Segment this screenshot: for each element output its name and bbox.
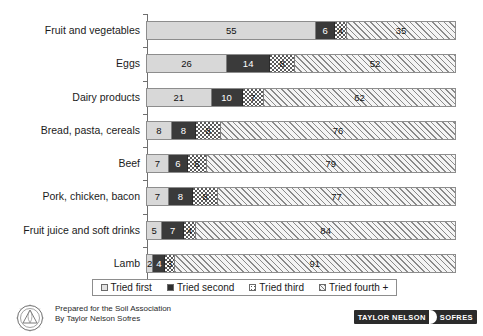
bar-segment-2: 6	[316, 22, 334, 39]
category-label: Fruit juice and soft drinks	[0, 225, 146, 236]
stacked-bar: 2110762	[146, 88, 456, 107]
bar-segment-3: 6	[188, 155, 207, 172]
bar-segment-4: 91	[175, 255, 455, 272]
bar-segment-1: 8	[147, 122, 172, 139]
bar-segment-4: 35	[347, 22, 455, 39]
bar-segment-1: 55	[147, 22, 316, 39]
bar-row: Dairy products2110762	[0, 81, 483, 114]
segment-value: 5	[152, 225, 157, 236]
category-label: Dairy products	[0, 92, 146, 103]
taylor-nelson-sofres-logo: TAYLOR NELSON SOFRES	[354, 310, 477, 324]
chart-legend: Tried firstTried secondTried thirdTried …	[92, 279, 397, 296]
bar-row: Pork, chicken, bacon78877	[0, 180, 483, 213]
bar-row: Fruit and vegetables556435	[0, 14, 483, 47]
logo-right-text: SOFRES	[440, 313, 473, 322]
segment-value: 6	[323, 25, 328, 36]
credit-line-1: Prepared for the Soil Association	[55, 304, 171, 314]
segment-value: 10	[221, 92, 232, 103]
segment-value: 6	[194, 158, 199, 169]
segment-value: 84	[320, 225, 331, 236]
stacked-bar: 2614852	[146, 54, 456, 73]
stacked-bar: 78877	[146, 187, 456, 206]
segment-value: 8	[279, 58, 284, 69]
bar-segment-4: 79	[207, 155, 455, 172]
logo-left-text: TAYLOR NELSON	[358, 313, 426, 322]
bar-segment-4: 52	[295, 55, 455, 72]
segment-value: 3	[167, 258, 172, 269]
bar-segment-2: 7	[162, 222, 184, 239]
segment-value: 14	[243, 58, 254, 69]
category-label: Fruit and vegetables	[0, 25, 146, 36]
segment-value: 21	[174, 92, 185, 103]
bar-segment-1: 21	[147, 89, 212, 106]
bar-segment-4: 62	[264, 89, 455, 106]
legend-item: Tried second	[167, 282, 234, 293]
bar-row: Fruit juice and soft drinks57484	[0, 214, 483, 247]
segment-value: 8	[156, 125, 161, 136]
legend-label: Tried first	[111, 282, 152, 293]
segment-value: 26	[181, 58, 192, 69]
credit-line-2: By Taylor Nelson Sofres	[55, 314, 171, 324]
bar-row: Eggs2614852	[0, 47, 483, 80]
legend-swatch-icon	[167, 284, 174, 291]
axis-tick	[143, 147, 148, 148]
category-label: Pork, chicken, bacon	[0, 191, 146, 202]
bar-segment-4: 77	[218, 188, 455, 205]
segment-value: 7	[155, 158, 160, 169]
bar-segment-3: 4	[184, 222, 196, 239]
segment-value: 4	[338, 25, 343, 36]
axis-tick	[143, 47, 148, 48]
segment-value: 4	[187, 225, 192, 236]
segment-value: 62	[354, 92, 365, 103]
segment-value: 7	[250, 92, 255, 103]
axis-tick	[143, 247, 148, 248]
credit-text: Prepared for the Soil Association By Tay…	[55, 304, 171, 324]
bar-segment-1: 5	[147, 222, 162, 239]
plot-area: Fruit and vegetables556435Eggs2614852Dai…	[0, 14, 483, 280]
axis-tick	[143, 14, 148, 15]
axis-tick	[143, 81, 148, 82]
bar-segment-1: 7	[147, 155, 169, 172]
segment-value: 91	[310, 258, 321, 269]
bar-segment-3: 4	[335, 22, 347, 39]
bar-segment-4: 84	[196, 222, 455, 239]
bar-segment-2: 14	[227, 55, 270, 72]
bar-segment-2: 4	[153, 255, 165, 272]
category-label: Bread, pasta, cereals	[0, 125, 146, 136]
segment-value: 52	[370, 58, 381, 69]
legend-label: Tried third	[259, 282, 304, 293]
chart-footer: Prepared for the Soil Association By Tay…	[0, 300, 483, 336]
legend-item: Tried third	[249, 282, 304, 293]
category-label: Eggs	[0, 58, 146, 69]
segment-value: 8	[205, 125, 210, 136]
bar-segment-3: 8	[196, 122, 221, 139]
bar-row: Beef76679	[0, 147, 483, 180]
bar-rows: Fruit and vegetables556435Eggs2614852Dai…	[0, 14, 483, 280]
legend-label: Tried fourth +	[329, 282, 388, 293]
soil-association-logo-icon	[8, 302, 52, 334]
segment-value: 35	[396, 25, 407, 36]
axis-tick	[143, 180, 148, 181]
logo-separator	[429, 310, 437, 324]
stacked-bar: 76679	[146, 154, 456, 173]
bar-segment-3: 8	[193, 188, 218, 205]
category-label: Beef	[0, 158, 146, 169]
category-label: Lamb	[0, 258, 146, 269]
legend-swatch-icon	[319, 284, 326, 291]
bar-segment-3: 3	[165, 255, 174, 272]
legend-swatch-icon	[249, 284, 256, 291]
segment-value: 6	[175, 158, 180, 169]
bar-segment-3: 8	[270, 55, 295, 72]
segment-value: 4	[156, 258, 161, 269]
legend-swatch-icon	[101, 284, 108, 291]
bar-row: Lamb24391	[0, 247, 483, 280]
bar-segment-2: 8	[169, 188, 194, 205]
segment-value: 77	[331, 191, 342, 202]
segment-value: 8	[181, 125, 186, 136]
stacked-bar-chart: Fruit and vegetables556435Eggs2614852Dai…	[0, 0, 483, 336]
bar-segment-2: 8	[172, 122, 197, 139]
legend-item: Tried first	[101, 282, 152, 293]
segment-value: 76	[333, 125, 344, 136]
bar-segment-3: 7	[243, 89, 265, 106]
bar-segment-2: 6	[169, 155, 188, 172]
